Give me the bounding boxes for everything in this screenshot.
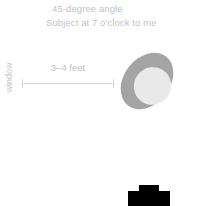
camera-body-icon	[128, 191, 170, 206]
lighting-setup-diagram: 45-degree angle Subject at 7 o'clock to …	[0, 0, 198, 206]
dimension-line	[22, 83, 114, 84]
distance-label: 3–4 feet	[21, 62, 115, 74]
dimension-tick-left	[22, 79, 23, 88]
camera-icon	[128, 185, 170, 206]
distance-dimension: 3–4 feet	[21, 62, 115, 88]
annotation-angle: 45-degree angle	[52, 3, 123, 15]
annotation-subject-position: Subject at 7 o'clock to me	[46, 17, 157, 29]
dimension-tick-right	[113, 79, 114, 88]
window-label: window	[4, 55, 15, 101]
